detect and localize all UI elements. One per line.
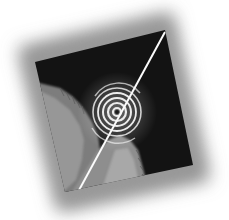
abstract-ripple-image	[0, 0, 229, 220]
artwork	[0, 0, 229, 220]
